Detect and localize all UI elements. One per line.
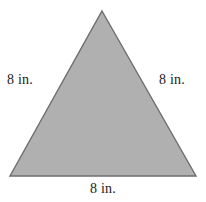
triangle-shape (0, 0, 206, 202)
triangle-polygon (10, 11, 196, 176)
bottom-side-label: 8 in. (0, 181, 206, 196)
geometry-figure: 8 in. 8 in. 8 in. (0, 0, 206, 202)
left-side-label: 8 in. (7, 72, 33, 87)
right-side-label: 8 in. (159, 72, 185, 87)
